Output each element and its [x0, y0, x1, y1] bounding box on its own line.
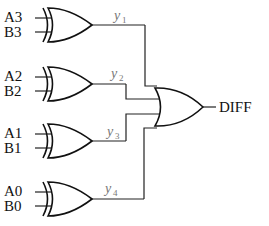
input-label-b2: B2	[4, 83, 22, 99]
output-label-diff: DIFF	[219, 99, 252, 115]
signal-label-y4: y	[103, 181, 112, 196]
input-label-a0: A0	[4, 183, 22, 199]
signal-sub-y3: 3	[115, 131, 120, 141]
xor-gate-1	[35, 8, 145, 42]
input-label-b3: B3	[4, 24, 22, 40]
input-label-a1: A1	[4, 125, 22, 141]
wire-y1	[145, 25, 157, 86]
input-label-b1: B1	[4, 140, 22, 156]
input-label-a3: A3	[4, 9, 22, 25]
signal-sub-y1: 1	[122, 15, 127, 25]
input-label-a2: A2	[4, 68, 22, 84]
signal-sub-y4: 4	[113, 188, 118, 198]
xor-gate-4	[35, 182, 144, 216]
wire-y4	[144, 128, 157, 199]
logic-diagram: A3 B3 y 1 A2 B2 y 2 A1 B1 y 3 A0 B0 y 4	[0, 0, 269, 226]
input-label-b0: B0	[4, 198, 22, 214]
signal-label-y2: y	[109, 66, 118, 81]
signal-sub-y2: 2	[119, 73, 124, 83]
signal-label-y3: y	[105, 124, 114, 139]
signal-label-y1: y	[112, 8, 121, 23]
or-gate	[155, 88, 203, 126]
